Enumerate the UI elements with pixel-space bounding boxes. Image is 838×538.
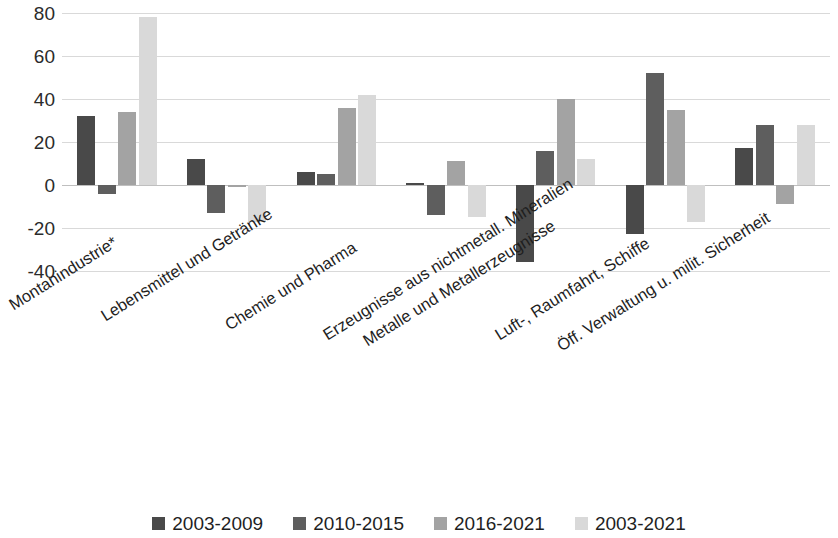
legend-swatch-icon	[575, 517, 588, 530]
bar	[406, 183, 424, 185]
x-axis-category-labels: Montanindustrie*Lebensmittel und Getränk…	[0, 275, 838, 505]
bar	[776, 185, 794, 204]
bar	[358, 95, 376, 185]
bar	[735, 148, 753, 185]
bar	[557, 99, 575, 185]
bar-group	[62, 13, 172, 271]
legend-label: 2003-2009	[172, 514, 263, 533]
bar	[687, 185, 705, 222]
bar	[756, 125, 774, 185]
y-axis-tick-label: 40	[3, 90, 55, 109]
legend-item[interactable]: 2003-2009	[152, 514, 263, 533]
legend-label: 2016-2021	[454, 514, 545, 533]
chart-legend: 2003-20092010-20152016-20212003-2021	[0, 508, 838, 538]
bar	[447, 161, 465, 185]
bar-chart: 806040200-20-40 Montanindustrie*Lebensmi…	[0, 0, 838, 538]
bar	[228, 185, 246, 187]
plot-area	[62, 13, 830, 271]
bar	[187, 159, 205, 185]
bar	[626, 185, 644, 234]
y-axis-tick-label: -20	[3, 219, 55, 238]
legend-label: 2003-2021	[595, 514, 686, 533]
bar	[797, 125, 815, 185]
bar	[338, 108, 356, 185]
bar	[77, 116, 95, 185]
bar	[646, 73, 664, 185]
legend-swatch-icon	[152, 517, 165, 530]
bar-group	[611, 13, 721, 271]
bar-group	[281, 13, 391, 271]
y-axis-tick-label: 80	[3, 4, 55, 23]
legend-item[interactable]: 2010-2015	[293, 514, 404, 533]
y-axis-tick-label: 20	[3, 133, 55, 152]
bar	[98, 185, 116, 194]
legend-label: 2010-2015	[313, 514, 404, 533]
bar	[468, 185, 486, 217]
legend-swatch-icon	[293, 517, 306, 530]
bar	[577, 159, 595, 185]
legend-item[interactable]: 2003-2021	[575, 514, 686, 533]
bar	[536, 151, 554, 185]
bar	[207, 185, 225, 213]
bar	[317, 174, 335, 185]
bar	[427, 185, 445, 215]
bar	[139, 17, 157, 185]
bar	[297, 172, 315, 185]
y-axis-ticks: 806040200-20-40	[0, 13, 55, 271]
y-axis-tick-label: 0	[3, 176, 55, 195]
y-axis-tick-label: 60	[3, 47, 55, 66]
bar	[118, 112, 136, 185]
legend-item[interactable]: 2016-2021	[434, 514, 545, 533]
legend-swatch-icon	[434, 517, 447, 530]
bar	[667, 110, 685, 185]
